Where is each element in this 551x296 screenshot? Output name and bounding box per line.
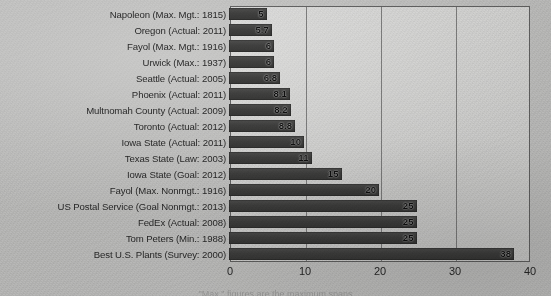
bar-track: 6 (228, 54, 530, 70)
bar-track: 15 (228, 166, 530, 182)
bar-row: Tom Peters (Min.: 1988)25 (0, 230, 551, 246)
bar-value-label: 5 (258, 8, 263, 19)
bar-row: Napoleon (Max. Mgt.: 1815)5 (0, 6, 551, 22)
bar-row: Phoenix (Actual: 2011)8.1 (0, 86, 551, 102)
bar-row: Texas State (Law: 2003)11 (0, 150, 551, 166)
bar-value-label: 20 (365, 184, 376, 195)
category-label: Napoleon (Max. Mgt.: 1815) (0, 9, 228, 20)
bar-value-label: 6 (266, 56, 271, 67)
bar-rows: Napoleon (Max. Mgt.: 1815)5Oregon (Actua… (0, 6, 551, 262)
x-tick-label: 20 (374, 265, 386, 277)
bar-row: Fayol (Max. Nonmgt.: 1916)20 (0, 182, 551, 198)
horizontal-bar-chart: Napoleon (Max. Mgt.: 1815)5Oregon (Actua… (0, 0, 551, 296)
bar (229, 200, 417, 213)
bar-value-label: 6.8 (264, 72, 277, 83)
category-label: Fayol (Max. Nonmgt.: 1916) (0, 185, 228, 196)
category-label: Seattle (Actual: 2005) (0, 73, 228, 84)
bar-track: 5.7 (228, 22, 530, 38)
bar-value-label: 8.1 (273, 88, 286, 99)
bar (229, 248, 514, 261)
bar-track: 8.8 (228, 118, 530, 134)
bar-track: 25 (228, 214, 530, 230)
bar-track: 20 (228, 182, 530, 198)
bar-row: Toronto (Actual: 2012)8.8 (0, 118, 551, 134)
bar-value-label: 38 (500, 248, 511, 259)
bar-value-label: 8.8 (279, 120, 292, 131)
bar (229, 216, 417, 229)
bar (229, 184, 379, 197)
bar-row: Multnomah County (Actual: 2009)8.2 (0, 102, 551, 118)
bar-track: 25 (228, 230, 530, 246)
bar-row: Iowa State (Actual: 2011)10 (0, 134, 551, 150)
bar-row: Urwick (Max.: 1937)6 (0, 54, 551, 70)
bar-value-label: 25 (403, 216, 414, 227)
x-tick-label: 40 (524, 265, 536, 277)
bar (229, 232, 417, 245)
bar-row: FedEx (Actual: 2008)25 (0, 214, 551, 230)
category-label: Iowa State (Actual: 2011) (0, 137, 228, 148)
category-label: Best U.S. Plants (Survey: 2000) (0, 249, 228, 260)
bar-track: 8.2 (228, 102, 530, 118)
x-axis: 010203040 (230, 263, 531, 285)
bar-value-label: 15 (328, 168, 339, 179)
bar-value-label: 6 (266, 40, 271, 51)
bar-row: Oregon (Actual: 2011)5.7 (0, 22, 551, 38)
category-label: Phoenix (Actual: 2011) (0, 89, 228, 100)
x-tick-label: 0 (227, 265, 233, 277)
bar-value-label: 8.2 (274, 104, 287, 115)
bar (229, 168, 342, 181)
bar-row: Iowa State (Goal: 2012)15 (0, 166, 551, 182)
category-label: Urwick (Max.: 1937) (0, 57, 228, 68)
category-label: Multnomah County (Actual: 2009) (0, 105, 228, 116)
bar-track: 10 (228, 134, 530, 150)
bar-track: 5 (228, 6, 530, 22)
bar-track: 11 (228, 150, 530, 166)
category-label: US Postal Service (Goal Nonmgt.: 2013) (0, 201, 228, 212)
category-label: Texas State (Law: 2003) (0, 153, 228, 164)
bar-row: Best U.S. Plants (Survey: 2000)38 (0, 246, 551, 262)
bar-track: 6 (228, 38, 530, 54)
x-tick-label: 30 (449, 265, 461, 277)
bar-value-label: 11 (298, 152, 308, 163)
bar-track: 38 (228, 246, 530, 262)
category-label: Iowa State (Goal: 2012) (0, 169, 228, 180)
bar-track: 6.8 (228, 70, 530, 86)
bar-row: Seattle (Actual: 2005)6.8 (0, 70, 551, 86)
bar-value-label: 10 (290, 136, 301, 147)
category-label: Oregon (Actual: 2011) (0, 25, 228, 36)
category-label: Toronto (Actual: 2012) (0, 121, 228, 132)
bar-value-label: 25 (403, 200, 414, 211)
bar-row: US Postal Service (Goal Nonmgt.: 2013)25 (0, 198, 551, 214)
bottom-caption: "Max." figures are the maximum spans (0, 289, 551, 296)
bar-row: Fayol (Max. Mgt.: 1916)6 (0, 38, 551, 54)
category-label: FedEx (Actual: 2008) (0, 217, 228, 228)
bar-track: 25 (228, 198, 530, 214)
bar-track: 8.1 (228, 86, 530, 102)
category-label: Tom Peters (Min.: 1988) (0, 233, 228, 244)
bar-value-label: 25 (403, 232, 414, 243)
x-tick-label: 10 (299, 265, 311, 277)
category-label: Fayol (Max. Mgt.: 1916) (0, 41, 228, 52)
bottom-caption-text: "Max." figures are the maximum spans (0, 289, 551, 296)
bar-value-label: 5.7 (255, 24, 268, 35)
